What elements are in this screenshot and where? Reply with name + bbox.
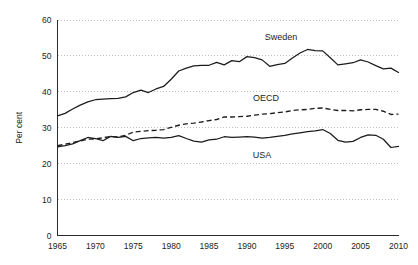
y-tick-label: 50	[42, 51, 52, 61]
series-group	[58, 49, 399, 147]
x-tick-label: 1980	[162, 241, 181, 251]
x-tick-label: 1985	[200, 241, 219, 251]
y-tick-label: 20	[42, 159, 52, 169]
x-tick-label: 1995	[275, 241, 294, 251]
x-tick-label: 2000	[313, 241, 332, 251]
y-axis-title-group: Per cent	[14, 111, 24, 143]
y-tick-label: 40	[42, 87, 52, 97]
series-line-usa	[58, 130, 399, 148]
x-tick-label: 1965	[48, 241, 67, 251]
y-tick-label: 30	[42, 123, 52, 133]
x-tick-label: 2010	[389, 241, 408, 251]
series-label-usa: USA	[253, 150, 272, 160]
series-label-oecd: OECD	[253, 93, 280, 103]
series-label-sweden: Sweden	[265, 32, 298, 42]
y-tick-label: 60	[42, 15, 52, 25]
ytick-labels-group: 0102030405060	[42, 15, 52, 241]
chart-plot-svg: 0102030405060 19651970197519801985199019…	[0, 0, 418, 265]
xtick-labels-group: 1965197019751980198519901995200020052010	[48, 241, 408, 251]
series-line-oecd	[58, 108, 399, 146]
y-axis-title: Per cent	[14, 111, 24, 143]
x-tick-label: 1975	[124, 241, 143, 251]
gridlines-group	[58, 20, 399, 200]
series-inline-labels-group: SwedenOECDUSA	[253, 32, 297, 160]
x-tick-label: 1990	[237, 241, 256, 251]
y-tick-label: 0	[47, 231, 52, 241]
x-tick-label: 2005	[351, 241, 370, 251]
x-tick-label: 1970	[86, 241, 105, 251]
y-tick-label: 10	[42, 195, 52, 205]
line-chart-container: 0102030405060 19651970197519801985199019…	[0, 0, 418, 265]
series-line-sweden	[58, 49, 399, 115]
